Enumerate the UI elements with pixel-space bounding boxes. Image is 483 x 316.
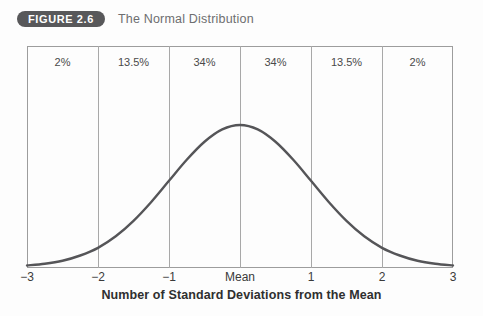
bell-curve	[27, 46, 453, 268]
x-tick-label: −3	[20, 270, 34, 284]
bell-curve-path	[27, 125, 453, 265]
x-axis-title: Number of Standard Deviations from the M…	[0, 288, 483, 302]
x-tick-label: 3	[450, 270, 457, 284]
x-tick-label: 2	[379, 270, 386, 284]
x-tick-label: −1	[162, 270, 176, 284]
normal-distribution-chart: 2%13.5%34%34%13.5%2% −3−2−1Mean123 Numbe…	[0, 0, 483, 316]
x-tick-label: Mean	[225, 270, 255, 284]
x-tick-label: −2	[91, 270, 105, 284]
figure-page: FIGURE 2.6 The Normal Distribution 2%13.…	[0, 0, 483, 316]
x-tick-label: 1	[308, 270, 315, 284]
